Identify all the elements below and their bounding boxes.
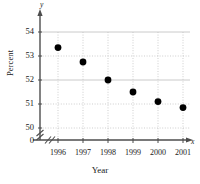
vertical-gridlines	[58, 32, 183, 140]
data-point	[155, 98, 162, 105]
y-axis-arrowhead	[37, 9, 42, 16]
y-tick-label-53: 53	[12, 51, 34, 60]
origin-label: 0	[12, 136, 34, 145]
y-tick-label-54: 54	[12, 27, 34, 36]
y-tick-label-52: 52	[12, 75, 34, 84]
scatter-chart: Percent Year 54 53 52 51 50 0 1996 1997 …	[0, 0, 200, 184]
data-points	[55, 44, 187, 111]
data-point	[180, 104, 187, 111]
x-tick-label-2001: 2001	[168, 148, 198, 157]
data-point	[130, 89, 137, 96]
data-point	[105, 77, 112, 84]
y-tick-label-51: 51	[12, 99, 34, 108]
horizontal-gridlines-dotted	[40, 56, 190, 128]
x-axis-letter: x	[191, 137, 194, 146]
x-axis-title: Year	[0, 165, 200, 175]
y-tick-label-50: 50	[12, 123, 34, 132]
data-point	[80, 59, 87, 66]
y-axis-letter: y	[40, 0, 43, 9]
data-point	[55, 44, 62, 51]
